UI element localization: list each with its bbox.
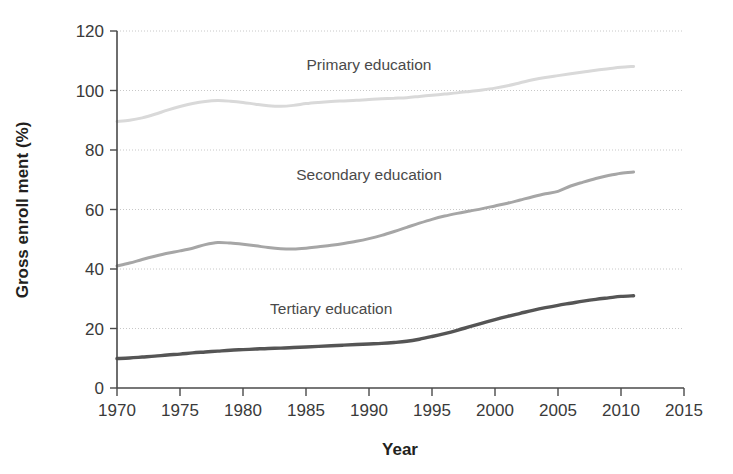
chart-figure: 020406080100120 197019751980198519901995… xyxy=(0,0,733,474)
x-tick-label-1985: 1985 xyxy=(287,401,325,420)
y-tick-label-80: 80 xyxy=(85,141,104,160)
x-tick-label-2015: 2015 xyxy=(665,401,703,420)
x-tick-label-2010: 2010 xyxy=(602,401,640,420)
series-label-secondary-education: Secondary education xyxy=(296,166,442,183)
x-tick-label-2000: 2000 xyxy=(476,401,514,420)
x-tick-label-1980: 1980 xyxy=(224,401,262,420)
y-tick-label-40: 40 xyxy=(85,260,104,279)
x-tick-label-2005: 2005 xyxy=(539,401,577,420)
series-label-primary-education: Primary education xyxy=(307,56,432,73)
y-tick-label-100: 100 xyxy=(76,82,104,101)
y-tick-label-0: 0 xyxy=(95,379,104,398)
x-axis-title: Year xyxy=(382,440,418,459)
x-tick-label-1970: 1970 xyxy=(98,401,136,420)
x-tick-label-1995: 1995 xyxy=(413,401,451,420)
y-tick-label-60: 60 xyxy=(85,201,104,220)
line-chart: 020406080100120 197019751980198519901995… xyxy=(0,0,733,474)
x-tick-label-1990: 1990 xyxy=(350,401,388,420)
y-tick-label-120: 120 xyxy=(76,22,104,41)
y-tick-label-20: 20 xyxy=(85,320,104,339)
y-axis-title: Gross enroll ment (%) xyxy=(13,122,32,299)
series-label-tertiary-education: Tertiary education xyxy=(270,300,392,317)
x-tick-label-1975: 1975 xyxy=(161,401,199,420)
